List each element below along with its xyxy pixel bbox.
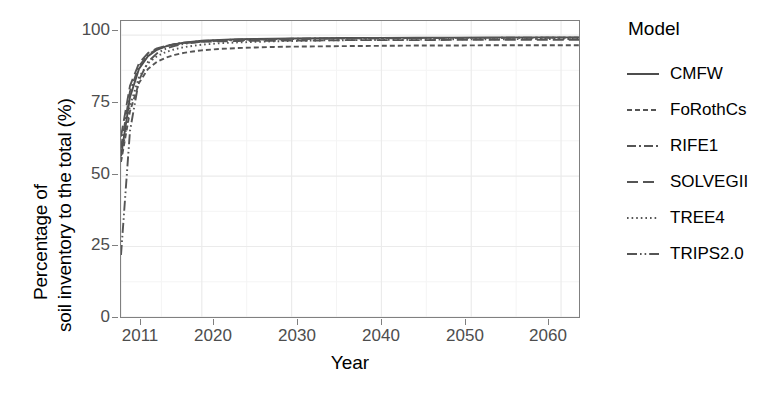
x-tick-label-2060: 2060 [529,326,567,346]
y-tick-mark-0 [112,317,118,318]
y-tick-label-25: 25 [66,235,110,255]
grid-lines-major [121,21,579,317]
legend-label: FoRothCs [670,100,747,120]
y-axis-tick-labels: 100 75 50 25 0 [62,0,110,340]
dotted-line-key [626,210,660,226]
legend-item-solvegii[interactable]: SOLVEGII [626,164,762,200]
x-tick-label-2050: 2050 [446,326,484,346]
series-line-rife1 [121,38,579,148]
legend-label: TRIPS2.0 [670,244,744,264]
y-tick-mark-50 [112,174,118,175]
legend-item-forothcs[interactable]: FoRothCs [626,92,762,128]
y-axis-title: Percentage of soil inventory to the tota… [0,0,64,340]
dash-dot-line-key [626,138,660,154]
y-tick-mark-25 [112,245,118,246]
chart-figure: Percentage of soil inventory to the tota… [0,0,762,399]
legend-label: SOLVEGII [670,172,748,192]
legend: Model CMFWFoRothCsRIFE1SOLVEGIITREE4TRIP… [626,18,762,272]
legend-label: CMFW [670,64,723,84]
dash-dot-dot-line-key [626,246,660,262]
legend-label: RIFE1 [670,136,718,156]
y-tick-label-50: 50 [66,164,110,184]
legend-item-rife1[interactable]: RIFE1 [626,128,762,164]
x-tick-mark-2011 [140,319,141,325]
y-axis-title-line-1: Percentage of [30,184,52,300]
x-tick-mark-2020 [213,319,214,325]
x-tick-mark-2030 [297,319,298,325]
legend-item-cmfw[interactable]: CMFW [626,56,762,92]
series-line-forothcs [121,45,579,162]
legend-item-trips2-0[interactable]: TRIPS2.0 [626,236,762,272]
x-tick-label-2011: 2011 [122,326,159,346]
plot-area [121,21,579,317]
solid-line-key [626,66,660,82]
y-tick-mark-100 [112,30,118,31]
plot-panel [120,20,580,318]
series-line-solvegii [121,40,579,137]
y-tick-label-100: 100 [66,20,110,40]
legend-item-tree4[interactable]: TREE4 [626,200,762,236]
legend-label: TREE4 [670,208,725,228]
x-tick-mark-2060 [548,319,549,325]
legend-title: Model [628,18,762,40]
x-tick-mark-2040 [381,319,382,325]
series-line-cmfw [121,37,579,156]
y-tick-label-0: 0 [66,307,110,327]
x-tick-label-2020: 2020 [194,326,232,346]
y-tick-label-75: 75 [66,92,110,112]
x-tick-mark-2050 [465,319,466,325]
x-axis-title: Year [120,352,580,374]
grid-lines-minor [121,21,579,317]
x-tick-label-2030: 2030 [278,326,316,346]
legend-items: CMFWFoRothCsRIFE1SOLVEGIITREE4TRIPS2.0 [626,56,762,272]
dashed-fine-line-key [626,102,660,118]
x-tick-label-2040: 2040 [362,326,400,346]
y-tick-mark-75 [112,102,118,103]
long-dash-line-key [626,174,660,190]
